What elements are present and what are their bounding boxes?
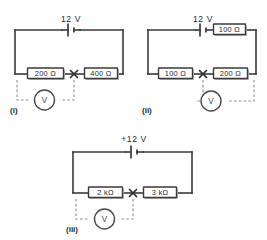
circuit-caption-ii: (ii) bbox=[142, 106, 152, 115]
battery-symbol-ii bbox=[196, 24, 213, 37]
source-label-iii: +12 V bbox=[121, 134, 147, 144]
circuit-diagram-canvas: 12 V 200 Ω bbox=[0, 0, 267, 240]
circuit-caption-iii: (iii) bbox=[66, 225, 78, 234]
resistor-100-ohm-bottom-ii: 100 Ω bbox=[159, 68, 195, 80]
resistor-label-ii-2: 100 Ω bbox=[165, 69, 187, 78]
resistor-200-ohm-i: 200 Ω bbox=[28, 68, 66, 80]
resistor-3-kohm-iii: 3 kΩ bbox=[144, 187, 179, 199]
resistor-label-i-2: 400 Ω bbox=[90, 69, 112, 78]
resistor-label-ii-1: 100 Ω bbox=[219, 25, 241, 34]
voltmeter-i[interactable]: V bbox=[35, 90, 55, 110]
resistor-label-iii-2: 3 kΩ bbox=[152, 188, 169, 197]
battery-symbol-iii bbox=[126, 146, 143, 159]
probe-lead-right-ii bbox=[227, 80, 254, 101]
battery-symbol-i bbox=[62, 24, 80, 37]
voltmeter-label-ii: V bbox=[208, 97, 214, 106]
voltmeter-label-iii: V bbox=[102, 215, 108, 224]
voltmeter-iii[interactable]: V bbox=[95, 209, 115, 229]
source-label-i: 12 V bbox=[61, 14, 81, 24]
voltmeter-ii[interactable]: V bbox=[201, 91, 221, 111]
resistor-label-i-1: 200 Ω bbox=[35, 69, 57, 78]
resistor-2-kohm-iii: 2 kΩ bbox=[89, 187, 125, 199]
resistor-400-ohm-i: 400 Ω bbox=[85, 68, 120, 80]
voltmeter-label-i: V bbox=[42, 96, 48, 105]
probe-lead-left-i bbox=[17, 80, 29, 100]
circuit-ii: 12 V 100 Ω bbox=[142, 14, 256, 115]
source-label-ii: 12 V bbox=[193, 14, 213, 24]
circuit-caption-i: (i) bbox=[10, 106, 18, 115]
circuit-iii: +12 V 2 kΩ bbox=[66, 134, 192, 234]
resistor-200-ohm-bottom-ii: 200 Ω bbox=[214, 68, 250, 80]
probe-lead-left-iii bbox=[76, 199, 89, 219]
probe-lead-right-i bbox=[60, 80, 74, 100]
resistor-label-ii-3: 200 Ω bbox=[220, 69, 242, 78]
probe-lead-right-iii bbox=[120, 199, 133, 219]
resistor-label-iii-1: 2 kΩ bbox=[97, 188, 114, 197]
circuit-i: 12 V 200 Ω bbox=[10, 14, 123, 115]
resistor-100-ohm-top-ii: 100 Ω bbox=[214, 24, 248, 36]
figure-sheet: 12 V 200 Ω bbox=[0, 0, 267, 240]
